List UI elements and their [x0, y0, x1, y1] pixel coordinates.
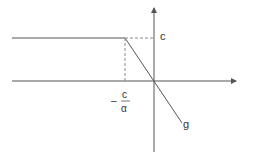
label-c-axis: c	[160, 30, 166, 42]
diagram-canvas: c – c α g	[0, 0, 253, 160]
label-fraction-denominator: α	[121, 103, 127, 114]
label-minus-sign: –	[111, 95, 117, 106]
label-fraction-numerator: c	[122, 89, 127, 100]
label-curve-g: g	[183, 118, 189, 130]
